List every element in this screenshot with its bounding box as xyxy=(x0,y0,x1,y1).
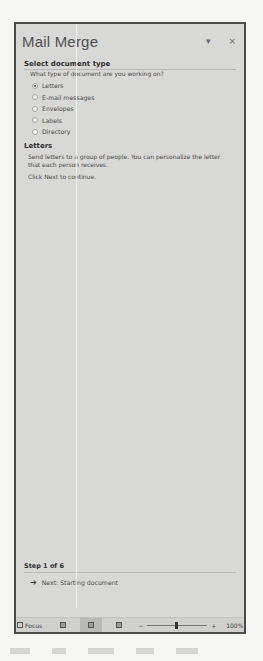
radio-label: E-mail messages xyxy=(42,94,94,101)
zoom-in-button[interactable]: + xyxy=(211,622,216,629)
close-icon[interactable]: × xyxy=(228,35,236,47)
radio-envelopes[interactable]: Envelopes xyxy=(32,103,94,115)
zoom-level[interactable]: 100% xyxy=(226,622,243,629)
zoom-slider[interactable] xyxy=(147,625,207,626)
radio-letters[interactable]: Letters xyxy=(32,80,94,92)
focus-button[interactable]: Focus xyxy=(17,622,42,629)
read-mode-icon xyxy=(60,622,66,628)
document-type-radio-group: Letters E-mail messages Envelopes Labels… xyxy=(32,80,94,138)
radio-button[interactable] xyxy=(32,106,38,112)
status-bar: Focus − + 100% xyxy=(16,617,244,632)
next-link-label: Next: Starting document xyxy=(42,579,118,586)
radio-label: Letters xyxy=(42,82,64,89)
zoom-out-button[interactable]: − xyxy=(138,622,143,629)
radio-label: Envelopes xyxy=(42,105,74,112)
radio-button[interactable] xyxy=(32,129,38,135)
letters-heading: Letters xyxy=(24,142,236,151)
radio-label: Labels xyxy=(42,117,62,124)
arrow-right-icon: ➔ xyxy=(30,578,37,587)
radio-button[interactable] xyxy=(32,94,38,100)
letters-instruction: Click Next to continue. xyxy=(28,173,234,181)
print-layout-button[interactable] xyxy=(80,618,102,632)
focus-icon xyxy=(17,622,23,628)
cropped-text-fragments xyxy=(10,648,253,656)
pane-title: Mail Merge xyxy=(22,33,98,50)
web-layout-icon xyxy=(116,622,122,628)
focus-label: Focus xyxy=(25,622,42,629)
radio-labels[interactable]: Labels xyxy=(32,115,94,127)
next-starting-document-link[interactable]: ➔ Next: Starting document xyxy=(30,578,118,587)
radio-button[interactable] xyxy=(32,83,38,89)
read-mode-button[interactable] xyxy=(52,618,74,632)
pane-title-bar: Mail Merge ▾ × xyxy=(22,32,238,54)
chevron-down-icon[interactable]: ▾ xyxy=(206,35,211,47)
radio-label: Directory xyxy=(42,128,71,135)
web-layout-button[interactable] xyxy=(108,618,130,632)
print-layout-icon xyxy=(88,622,94,628)
letters-description: Send letters to a group of people. You c… xyxy=(28,153,234,169)
document-type-question: What type of document are you working on… xyxy=(30,70,234,78)
radio-directory[interactable]: Directory xyxy=(32,126,94,138)
step-indicator: Step 1 of 6 xyxy=(24,562,236,573)
radio-button[interactable] xyxy=(32,117,38,123)
zoom-slider-thumb[interactable] xyxy=(175,622,178,629)
select-document-type-heading: Select document type xyxy=(24,60,236,70)
mail-merge-pane: Mail Merge ▾ × Select document type What… xyxy=(14,22,246,634)
radio-email-messages[interactable]: E-mail messages xyxy=(32,92,94,104)
